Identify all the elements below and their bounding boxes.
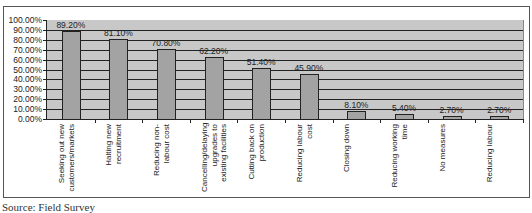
bar (395, 114, 414, 120)
x-category-label: Closing down (342, 124, 386, 192)
bar-value-label: 81.10% (88, 28, 148, 38)
x-category-label: Reducing labour (485, 124, 529, 192)
y-tick (43, 30, 47, 31)
y-tick-label: 70.00% (0, 45, 42, 55)
x-category-label: Halting new recruitment (104, 124, 148, 192)
x-tick (95, 119, 96, 123)
x-tick (237, 119, 238, 123)
x-category-label: No measures (438, 124, 482, 192)
y-tick (43, 109, 47, 110)
y-tick (43, 119, 47, 120)
y-tick (43, 79, 47, 80)
y-tick (43, 50, 47, 51)
x-tick (380, 119, 381, 123)
y-tick-label: 80.00% (0, 35, 42, 45)
x-category-label: Cutting back on production (247, 124, 291, 192)
x-category-label: Reducing working time (390, 124, 434, 192)
y-tick-label: 0.00% (0, 114, 42, 124)
x-tick (190, 119, 191, 123)
y-tick-label: 90.00% (0, 25, 42, 35)
x-category-label: Cancelling/delaying upgrades to existing… (200, 124, 244, 192)
bar (347, 111, 366, 120)
y-tick-label: 100.00% (0, 15, 42, 25)
y-tick-label: 30.00% (0, 84, 42, 94)
bar (109, 39, 128, 120)
bar (300, 74, 319, 120)
bar (443, 116, 462, 120)
x-tick (142, 119, 143, 123)
y-tick-label: 10.00% (0, 104, 42, 114)
x-tick (428, 119, 429, 123)
y-tick-label: 20.00% (0, 94, 42, 104)
x-category-label: Seeking out new customers/markets (57, 124, 101, 192)
bar-value-label: 62.20% (184, 46, 244, 56)
y-tick-label: 50.00% (0, 65, 42, 75)
y-tick (43, 70, 47, 71)
bar (490, 116, 509, 120)
y-tick-label: 40.00% (0, 74, 42, 84)
x-category-label: Reducing non-labour cost (152, 124, 196, 192)
y-tick (43, 99, 47, 100)
y-tick-label: 60.00% (0, 55, 42, 65)
x-tick (475, 119, 476, 123)
source-note: Source: Field Survey (2, 201, 95, 213)
y-tick (43, 89, 47, 90)
bar-value-label: 45.90% (279, 63, 339, 73)
x-tick (285, 119, 286, 123)
bar (205, 57, 224, 120)
y-tick (43, 60, 47, 61)
x-category-label: Reducing labour cost (295, 124, 339, 192)
x-tick (333, 119, 334, 123)
y-tick (43, 40, 47, 41)
bar (252, 68, 271, 120)
x-tick (523, 119, 524, 123)
bar (62, 31, 81, 120)
bar-value-label: 2.70% (469, 105, 529, 115)
bar (157, 49, 176, 120)
